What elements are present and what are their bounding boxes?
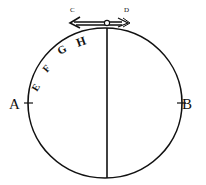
pivot-icon <box>104 20 109 25</box>
arrow-needle <box>70 17 130 28</box>
label-f: F <box>40 63 52 75</box>
label-d: D <box>124 6 129 14</box>
label-c: C <box>70 6 75 14</box>
label-g: G <box>55 42 69 57</box>
label-a: A <box>9 96 20 112</box>
great-circle <box>28 28 182 178</box>
label-h: H <box>74 33 88 50</box>
circle-diagram: C D A B E F G H <box>0 0 206 185</box>
label-e: E <box>29 81 42 93</box>
label-b: B <box>182 96 192 112</box>
